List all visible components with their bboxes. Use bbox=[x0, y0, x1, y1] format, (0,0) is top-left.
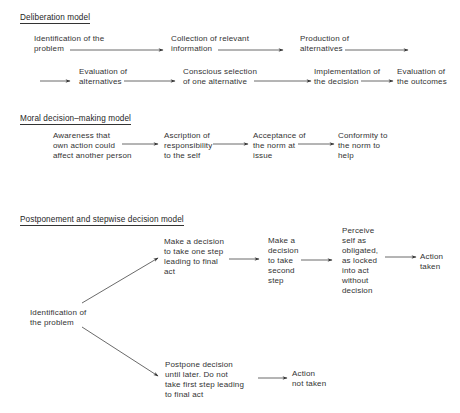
node-ascription: Ascription of responsibility to the self bbox=[164, 131, 212, 161]
node-action-not-taken: Action not taken bbox=[292, 369, 326, 389]
node-acceptance: Acceptance of the norm at issue bbox=[253, 131, 306, 161]
arrow-layer bbox=[0, 0, 460, 413]
node-conformity: Conformity to the norm to help bbox=[338, 131, 388, 161]
deliberation-model-title: Deliberation model bbox=[20, 13, 90, 24]
arrow-p1-p6 bbox=[82, 327, 158, 376]
node-evaluation-alternatives: Evaluation of alternatives bbox=[79, 67, 127, 87]
node-decision-one-step: Make a decision to take one step leading… bbox=[164, 237, 224, 277]
node-decision-second-step: Make a decision to take second step bbox=[268, 236, 299, 286]
node-identification-problem: Identification of the problem bbox=[34, 34, 104, 54]
node-conscious-selection: Conscious selection of one alternative bbox=[183, 67, 257, 87]
node-action-taken: Action taken bbox=[420, 252, 443, 272]
node-production-alternatives: Production of alternatives bbox=[300, 34, 349, 54]
node-implementation: Implementation of the decision bbox=[314, 67, 380, 87]
arrow-p1-p2 bbox=[82, 258, 158, 303]
postponement-model-title: Postponement and stepwise decision model bbox=[20, 215, 184, 226]
node-awareness: Awareness that own action could affect a… bbox=[53, 131, 132, 161]
moral-model-title: Moral decision–making model bbox=[20, 114, 131, 125]
node-identification-problem-2: Identification of the problem bbox=[30, 308, 86, 328]
node-perceive-obligated: Perceive self as obligated, as locked in… bbox=[342, 226, 378, 296]
node-postpone-decision: Postpone decision until later. Do not ta… bbox=[165, 360, 244, 400]
node-collection-information: Collection of relevant information bbox=[171, 34, 249, 54]
node-evaluation-outcomes: Evaluation of the outcomes bbox=[397, 67, 447, 87]
